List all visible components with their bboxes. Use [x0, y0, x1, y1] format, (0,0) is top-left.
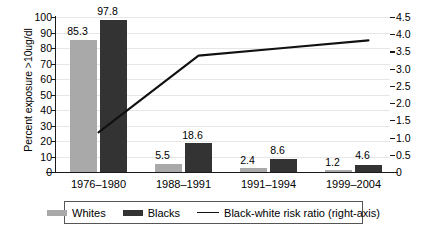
- legend-swatch-whites-icon: [47, 210, 67, 216]
- tickmark-right-4-5: [390, 17, 395, 18]
- tickmark-right-2-5: [390, 86, 395, 87]
- legend-label-risk-ratio: Black-white risk ratio (right-axis): [224, 207, 380, 219]
- legend-item-blacks: Blacks: [123, 207, 180, 219]
- risk-ratio-line: [56, 17, 390, 172]
- y-tick-40: 40: [26, 105, 52, 116]
- y-tick-50: 50: [26, 90, 52, 101]
- tickmark-right-1-0: [390, 138, 395, 139]
- value-label-blacks-1988-1991: 18.6: [169, 130, 216, 141]
- y-tick-70: 70: [26, 59, 52, 70]
- legend-label-blacks: Blacks: [148, 207, 180, 219]
- legend-item-risk-ratio: Black-white risk ratio (right-axis): [197, 207, 380, 219]
- y-tick-100: 100: [26, 12, 52, 23]
- y2-tick-3-0: 3.0: [396, 64, 422, 75]
- y-tick-20: 20: [26, 136, 52, 147]
- value-label-whites-1988-1991: 5.5: [139, 150, 186, 161]
- chart-legend: Whites Blacks Black-white risk ratio (ri…: [64, 201, 363, 224]
- tickmark-right-3-0: [390, 69, 395, 70]
- y-tick-60: 60: [26, 74, 52, 85]
- y-tick-90: 90: [26, 28, 52, 39]
- legend-swatch-line-icon: [197, 212, 219, 214]
- y2-tick-4-5: 4.5: [396, 12, 422, 23]
- y-tick-80: 80: [26, 43, 52, 54]
- x-tick-1991-1994: 1991–1994: [226, 178, 311, 190]
- plot-area: [56, 17, 390, 172]
- y2-tick-2-5: 2.5: [396, 81, 422, 92]
- value-label-blacks-1976-1980: 97.8: [84, 6, 131, 17]
- x-tick-1999-2004: 1999–2004: [311, 178, 396, 190]
- legend-swatch-blacks-icon: [123, 210, 143, 216]
- legend-label-whites: Whites: [72, 207, 106, 219]
- risk-ratio-polyline: [99, 40, 369, 132]
- y2-tick-4-0: 4.0: [396, 29, 422, 40]
- value-label-blacks-1991-1994: 8.6: [254, 145, 301, 156]
- y-tick-10: 10: [26, 152, 52, 163]
- y2-tick-0: 0: [396, 167, 422, 178]
- value-label-blacks-1999-2004: 4.6: [339, 150, 386, 161]
- y-tick-30: 30: [26, 121, 52, 132]
- legend-item-whites: Whites: [47, 207, 106, 219]
- x-tick-1976-1980: 1976–1980: [56, 178, 141, 190]
- tickmark-right-0-5: [390, 155, 395, 156]
- value-label-whites-1976-1980: 85.3: [54, 26, 101, 37]
- y2-tick-1-5: 1.5: [396, 115, 422, 126]
- y2-tick-3-5: 3.5: [396, 46, 422, 57]
- y2-tick-0-5: 0.5: [396, 150, 422, 161]
- y2-tick-2-0: 2.0: [396, 98, 422, 109]
- value-label-whites-1991-1994: 2.4: [224, 155, 271, 166]
- tickmark-right-1-5: [390, 120, 395, 121]
- dual-axis-bar-line-chart: Percent exposure >10ug/dl 100 90 80 70 6…: [0, 0, 428, 237]
- x-tick-1988-1991: 1988–1991: [141, 178, 226, 190]
- y2-tick-1-0: 1.0: [396, 133, 422, 144]
- tickmark-right-4-0: [390, 34, 395, 35]
- tickmark-right-3-5: [390, 51, 395, 52]
- tickmark-right-2-0: [390, 103, 395, 104]
